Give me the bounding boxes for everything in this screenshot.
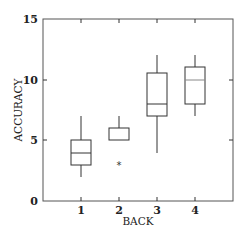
y-axis-title: ACCURACY xyxy=(12,77,24,142)
box-plot-chart: 0 5 10 15 1 2 3 4 BACK ACCURACY * xyxy=(0,0,247,232)
box-3 xyxy=(147,55,167,153)
outlier-marker: * xyxy=(117,160,122,171)
y-tick-label-10: 10 xyxy=(23,74,39,87)
box-2 xyxy=(109,116,129,140)
y-tick-label-15: 15 xyxy=(23,13,38,26)
x-tick-label-1: 1 xyxy=(77,204,85,217)
x-axis xyxy=(81,19,195,201)
box-1 xyxy=(71,116,91,177)
y-tick-label-5: 5 xyxy=(30,134,38,147)
x-axis-title: BACK xyxy=(122,215,153,227)
plot-frame xyxy=(43,19,233,201)
box-4 xyxy=(185,55,205,116)
y-tick-label-0: 0 xyxy=(30,195,38,208)
x-tick-label-4: 4 xyxy=(191,204,199,217)
x-tick-label-3: 3 xyxy=(153,204,161,217)
